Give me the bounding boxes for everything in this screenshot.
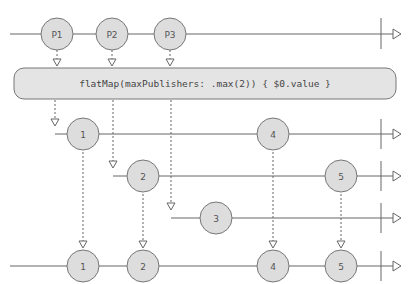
marble-label: P2 (106, 30, 117, 40)
input-marble: P2 (96, 18, 128, 50)
output-marble: 4 (257, 250, 289, 282)
arrow-down-icon (51, 119, 59, 126)
marble-diagram: P1P2P3 flatMap(maxPublishers: .max(2)) {… (0, 0, 410, 284)
inner-marble: 4 (257, 118, 289, 150)
inner-marble: 1 (67, 118, 99, 150)
marble-label: 5 (338, 262, 344, 272)
marble-label: 2 (140, 262, 146, 272)
arrow-down-icon (269, 241, 277, 248)
arrow-down-icon (53, 59, 61, 66)
arrow-icon (393, 213, 401, 223)
arrow-down-icon (337, 241, 345, 248)
output-marble: 5 (325, 250, 357, 282)
marble-label: 1 (80, 262, 86, 272)
inner-marble: 3 (200, 202, 232, 234)
marble-label: 4 (270, 130, 276, 140)
marble-label: 4 (270, 262, 276, 272)
arrow-icon (393, 129, 401, 139)
arrow-down-icon (108, 59, 116, 66)
arrow-down-icon (109, 161, 117, 168)
input-marble: P1 (41, 18, 73, 50)
arrow-icon (393, 171, 401, 181)
output-marble: 1 (67, 250, 99, 282)
output-marble: 2 (127, 250, 159, 282)
arrow-down-icon (139, 241, 147, 248)
inner-stream: 25 (109, 100, 401, 192)
inner-marble: 5 (325, 160, 357, 192)
inner-stream: 3 (167, 100, 401, 234)
marble-label: 2 (140, 172, 146, 182)
arrow-down-icon (79, 241, 87, 248)
inner-stream: 14 (51, 100, 401, 150)
arrow-icon (393, 29, 401, 39)
marble-label: 3 (213, 214, 219, 224)
operator-label: flatMap(maxPublishers: .max(2)) { $0.val… (79, 78, 331, 89)
arrow-icon (393, 261, 401, 271)
arrow-down-icon (166, 59, 174, 66)
operator-box: flatMap(maxPublishers: .max(2)) { $0.val… (14, 68, 396, 99)
inner-marble: 2 (127, 160, 159, 192)
marble-label: P1 (51, 30, 62, 40)
marble-label: P3 (164, 30, 175, 40)
marble-label: 5 (338, 172, 344, 182)
input-marble: P3 (154, 18, 186, 50)
marble-label: 1 (80, 130, 86, 140)
arrow-down-icon (167, 203, 175, 210)
